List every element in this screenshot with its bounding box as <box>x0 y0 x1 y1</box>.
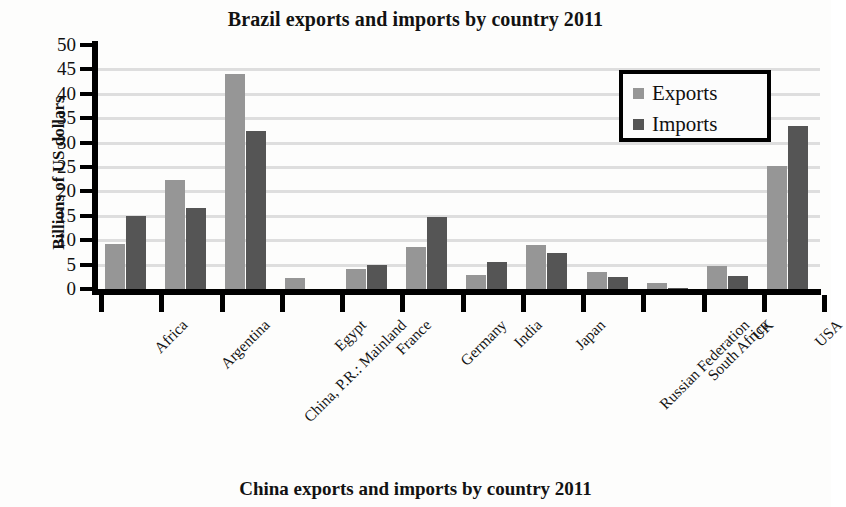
y-axis-tick-label: 0 <box>42 279 76 298</box>
bar-imports <box>246 131 266 289</box>
bar-imports <box>608 277 628 289</box>
bar-exports <box>466 275 486 289</box>
y-axis-tick-label: 40 <box>42 84 76 103</box>
y-axis-tick-label: 25 <box>42 157 76 176</box>
x-axis-line <box>92 289 821 295</box>
x-axis-category-label: Argentina <box>217 316 273 372</box>
brazil-trade-bar-chart: Brazil exports and imports by country 20… <box>0 0 831 440</box>
y-axis-tick-label: 20 <box>42 181 76 200</box>
y-axis-tick-labels: 50454035302520151050 <box>36 0 76 340</box>
x-axis-tick <box>461 295 466 312</box>
y-axis-tick <box>80 67 98 71</box>
chart-title: Brazil exports and imports by country 20… <box>0 8 831 31</box>
x-axis-tick <box>581 295 586 312</box>
bar-imports <box>728 276 748 289</box>
y-axis-tick <box>80 189 98 193</box>
bar-imports <box>547 253 567 289</box>
y-axis-tick-label: 10 <box>42 230 76 249</box>
x-axis-tick <box>220 295 225 312</box>
x-axis-tick <box>822 295 827 312</box>
bar-imports <box>367 265 387 289</box>
bar-imports <box>788 126 808 289</box>
x-axis-category-label: Japan <box>571 316 609 354</box>
bar-exports <box>707 266 727 289</box>
bar-exports <box>526 245 546 289</box>
x-axis-tick <box>280 295 285 312</box>
x-axis-tick <box>99 295 104 312</box>
bar-exports <box>285 278 305 289</box>
y-axis-tick <box>80 116 98 120</box>
legend-swatch-imports-icon <box>633 119 644 130</box>
legend-label-exports: Exports <box>652 83 717 104</box>
chart-title-second-figure: China exports and imports by country 201… <box>0 478 831 500</box>
y-axis-tick-label: 45 <box>42 59 76 78</box>
gridline <box>97 166 820 169</box>
x-axis-category-label: India <box>510 316 545 351</box>
legend-item-imports: Imports <box>633 109 767 140</box>
bar-imports <box>186 208 206 289</box>
y-axis-tick <box>80 263 98 267</box>
bar-imports <box>427 217 447 289</box>
legend-item-exports: Exports <box>633 78 767 109</box>
gridline <box>97 142 820 145</box>
x-axis-category-label: Africa <box>151 316 192 357</box>
bar-exports <box>767 166 787 289</box>
bar-exports <box>105 244 125 289</box>
y-axis-tick-label: 30 <box>42 133 76 152</box>
bar-exports <box>165 180 185 289</box>
x-axis-tick <box>641 295 646 312</box>
y-axis-tick-label: 5 <box>42 255 76 274</box>
bar-exports <box>346 269 366 289</box>
legend-label-imports: Imports <box>652 114 717 135</box>
y-axis-tick <box>80 214 98 218</box>
x-axis-tick <box>340 295 345 312</box>
x-axis-category-label: Russian Federation <box>656 316 753 413</box>
y-axis-tick <box>80 165 98 169</box>
x-axis-tick <box>159 295 164 312</box>
bar-imports <box>487 262 507 289</box>
y-axis-tick <box>80 287 98 291</box>
x-axis-tick <box>762 295 767 312</box>
chart-legend: Exports Imports <box>619 70 771 142</box>
y-axis-tick <box>80 92 98 96</box>
bar-exports <box>225 74 245 289</box>
y-axis-tick <box>80 141 98 145</box>
y-axis-tick <box>80 238 98 242</box>
x-axis-tick <box>400 295 405 312</box>
legend-swatch-exports-icon <box>633 88 644 99</box>
y-axis-tick <box>80 43 98 47</box>
bar-imports <box>126 216 146 289</box>
x-axis-tick <box>702 295 707 312</box>
bar-exports <box>406 247 426 289</box>
gridline <box>97 190 820 193</box>
y-axis-tick-label: 15 <box>42 206 76 225</box>
x-axis-tick <box>521 295 526 312</box>
bar-exports <box>587 272 607 289</box>
y-axis-tick-label: 50 <box>42 35 76 54</box>
x-axis-category-label: Germany <box>457 316 511 370</box>
china-trade-bar-chart-partial: China exports and imports by country 201… <box>0 478 831 507</box>
y-axis-tick-label: 35 <box>42 108 76 127</box>
x-axis-category-label: USA <box>811 316 846 351</box>
